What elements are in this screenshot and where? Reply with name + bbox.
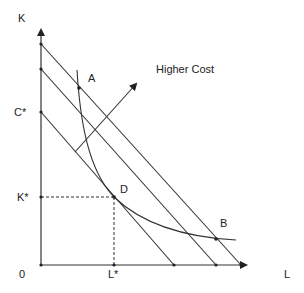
- point-b-dot: [214, 237, 218, 241]
- x-axis-label: L: [284, 268, 290, 280]
- isoquant-curve: [77, 70, 236, 240]
- x-intercept-middle-dot: [214, 263, 217, 266]
- k-star-label: K*: [17, 191, 29, 203]
- origin-label: 0: [19, 268, 25, 280]
- c-star-label: C*: [14, 106, 27, 118]
- l-star-dot: [112, 263, 115, 266]
- x-intercept-inner-dot: [172, 263, 175, 266]
- c-star-dot: [39, 110, 42, 113]
- isocost-line-middle: [41, 69, 216, 265]
- y-intercept-outer-dot: [39, 42, 42, 45]
- y-intercept-middle-dot: [39, 67, 42, 70]
- origin-dot: [39, 263, 42, 266]
- point-a-label: A: [88, 72, 96, 84]
- point-a-dot: [77, 86, 81, 90]
- x-intercept-outer-dot: [239, 263, 242, 266]
- higher-cost-label: Higher Cost: [156, 63, 214, 75]
- l-star-label: L*: [108, 268, 119, 280]
- point-b-label: B: [220, 217, 227, 229]
- isocost-line-outer: [41, 44, 241, 265]
- y-axis-label: K: [18, 12, 26, 24]
- k-star-dot: [39, 195, 42, 198]
- isocost-diagram: K L 0 C* K* L* A D B Higher Cost: [0, 0, 304, 293]
- point-d-dot: [112, 195, 116, 199]
- point-d-label: D: [120, 183, 128, 195]
